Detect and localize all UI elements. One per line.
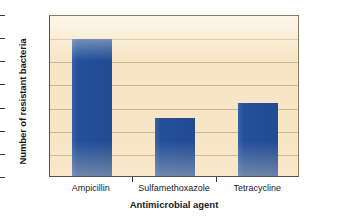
bar-series — [50, 16, 298, 176]
x-axis-ticks: AmpicillinSulfamethoxazoleTetracycline — [49, 177, 299, 217]
x-category-label: Tetracycline — [234, 184, 282, 193]
y-tick-mark — [0, 84, 5, 85]
y-tick-mark — [0, 177, 5, 178]
bar-ampicillin — [72, 39, 112, 176]
bar-tetracycline — [238, 103, 278, 176]
x-category-label: Sulfamethoxazole — [138, 184, 210, 193]
x-tick-mark — [216, 177, 217, 182]
y-axis-ticks: 010203040506070 — [0, 0, 49, 223]
y-tick-mark — [0, 108, 5, 109]
x-tick-mark — [132, 177, 133, 182]
x-axis-title: Antimicrobial agent — [49, 199, 299, 210]
plot-area — [49, 15, 299, 177]
y-tick-mark — [0, 131, 5, 132]
y-tick-mark — [0, 15, 5, 16]
y-tick-mark — [0, 61, 5, 62]
bar-chart-figure: Number of resistant bacteria 01020304050… — [0, 0, 343, 223]
x-category-label: Ampicillin — [72, 184, 110, 193]
y-tick-mark — [0, 38, 5, 39]
bar-sulfamethoxazole — [155, 118, 195, 176]
y-tick-mark — [0, 154, 5, 155]
